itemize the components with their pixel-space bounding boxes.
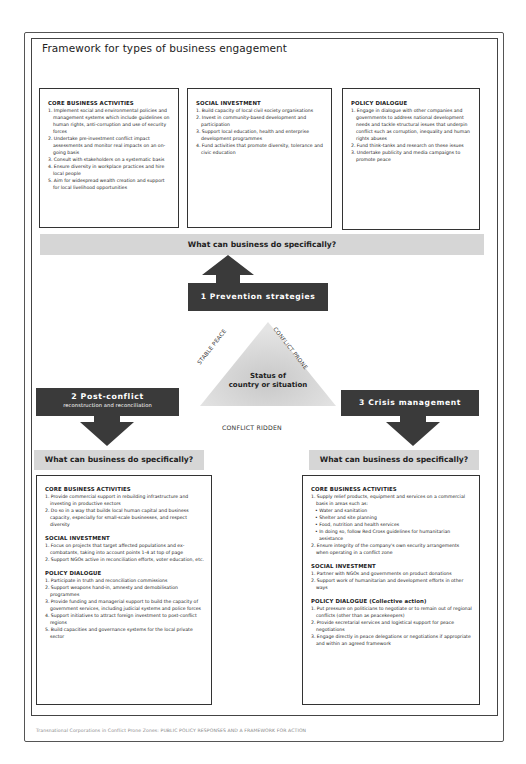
social-investment-box: SOCIAL INVESTMENT 1. Build capacity of l… (187, 88, 332, 228)
list-item: 1. Implement social and environmental po… (48, 107, 172, 135)
list-item: 2. Do so in a way that builds local huma… (45, 507, 205, 528)
list-item: 2. Support weapons hand-in, amnesty and … (45, 584, 205, 598)
social-heading: SOCIAL INVESTMENT (45, 535, 205, 541)
bullet-item: • Shelter and site planning (311, 514, 473, 521)
list-item: 2. Support work of humanitarian and deve… (311, 577, 473, 591)
list-item: 1. Partner with NGOs and governments on … (311, 570, 473, 577)
social-list: 1. Focus on projects that target affecte… (45, 542, 205, 563)
box-heading: SOCIAL INVESTMENT (196, 100, 325, 106)
crisis-actions-box: CORE BUSINESS ACTIVITIES 1. Supply relie… (302, 475, 480, 705)
list-item: 4. Support initiatives to attract foreig… (45, 612, 205, 626)
core-heading: CORE BUSINESS ACTIVITIES (311, 486, 473, 492)
list-item: 4. Ensure diversity in workplace practic… (48, 163, 172, 177)
conflict-ridden-label: CONFLICT RIDDEN (222, 424, 282, 431)
social-heading: SOCIAL INVESTMENT (311, 563, 473, 569)
post-conflict-subtitle: reconstruction and reconciliation (36, 402, 179, 408)
down-arrow-left-icon (76, 414, 138, 446)
core-heading: CORE BUSINESS ACTIVITIES (45, 486, 205, 492)
list-item: 1. Focus on projects that target affecte… (45, 542, 205, 556)
box-heading: POLICY DIALOGUE (351, 100, 473, 106)
question-bar-right: What can business do specifically? (309, 450, 479, 470)
list-item: 2. Support NGOs active in reconciliation… (45, 556, 205, 563)
social-list: 1. Partner with NGOs and governments on … (311, 570, 473, 591)
box-heading: CORE BUSINESS ACTIVITIES (48, 100, 172, 106)
item-list: 1. Build capacity of local civil society… (196, 107, 325, 156)
core-list: 1. Supply relief products, equipment and… (311, 493, 473, 556)
list-item: 1. Engage in dialogue with other compani… (351, 107, 473, 142)
list-item: 2. Provide secretarial services and logi… (311, 619, 473, 633)
core-business-activities-box: CORE BUSINESS ACTIVITIES 1. Implement so… (39, 88, 179, 228)
list-item: 1. Participate in truth and reconciliati… (45, 577, 205, 584)
policy-list: 1. Put pressure on politicians to negoti… (311, 605, 473, 647)
question-bar-top: What can business do specifically? (40, 234, 484, 255)
item-list: 1. Implement social and environmental po… (48, 107, 172, 191)
list-item: 3. Consult with stakeholders on a system… (48, 156, 172, 163)
policy-list: 1. Participate in truth and reconciliati… (45, 577, 205, 640)
core-list: 1. Provide commercial support in rebuild… (45, 493, 205, 528)
list-item: 2. Fund think-tanks and research on thes… (351, 142, 473, 149)
policy-heading: POLICY DIALOGUE (45, 570, 205, 576)
list-item: 3. Support local education, health and e… (196, 128, 325, 142)
list-item: 1. Put pressure on politicians to negoti… (311, 605, 473, 619)
list-item: 4. Fund activities that promote diversit… (196, 142, 325, 156)
bullet-item: • Food, nutrition and health services (311, 521, 473, 528)
bullet-item: • Water and sanitation (311, 507, 473, 514)
post-conflict-title: 2 Post-conflict (71, 392, 143, 401)
crisis-management-label: 3 Crisis management (341, 390, 479, 416)
list-item: 1. Provide commercial support in rebuild… (45, 493, 205, 507)
list-item: 5. Build capacities and governance syste… (45, 626, 205, 640)
list-item: 2. Invest in community-based development… (196, 114, 325, 128)
list-item: 2. Ensure integrity of the company's own… (311, 542, 473, 556)
list-item: 1. Build capacity of local civil society… (196, 107, 325, 114)
policy-heading: POLICY DIALOGUE (Collective action) (311, 598, 473, 604)
list-item: 3. Undertake publicity and media campaig… (351, 149, 473, 163)
status-line-2: country or situation (228, 381, 308, 390)
post-conflict-label: 2 Post-conflict reconstruction and recon… (36, 388, 179, 416)
list-item: 5. Aim for widespread wealth creation an… (48, 177, 172, 191)
list-item: 2. Undertake pre-investment conflict imp… (48, 135, 172, 156)
prevention-strategies-label: 1 Prevention strategies (188, 283, 328, 311)
list-item: 3. Provide funding and managerial suppor… (45, 598, 205, 612)
list-item: 3. Engage directly in peace delegations … (311, 633, 473, 647)
status-line-1: Status of (228, 372, 308, 381)
policy-dialogue-box: POLICY DIALOGUE 1. Engage in dialogue wi… (342, 88, 480, 230)
footer-citation: Transnational Corporations in Conflict P… (36, 728, 306, 733)
post-conflict-actions-box: CORE BUSINESS ACTIVITIES 1. Provide comm… (36, 475, 212, 705)
list-item: 1. Supply relief products, equipment and… (311, 493, 473, 507)
page-title: Framework for types of business engageme… (42, 42, 287, 54)
bullet-item: • In doing so, follow Red Cross guidelin… (311, 528, 473, 542)
down-arrow-right-icon (382, 414, 444, 446)
item-list: 1. Engage in dialogue with other compani… (351, 107, 473, 163)
question-bar-left: What can business do specifically? (34, 450, 204, 470)
status-label: Status of country or situation (228, 372, 308, 390)
